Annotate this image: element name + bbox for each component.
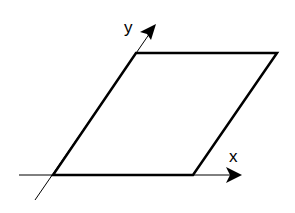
y-axis-arrowhead-icon bbox=[140, 24, 156, 40]
parallelogram-shape bbox=[53, 53, 277, 175]
y-axis-label: y bbox=[124, 18, 133, 37]
x-axis-label: x bbox=[229, 147, 238, 166]
diagram-canvas: y x bbox=[0, 0, 295, 213]
diagram-svg: y x bbox=[0, 0, 295, 213]
